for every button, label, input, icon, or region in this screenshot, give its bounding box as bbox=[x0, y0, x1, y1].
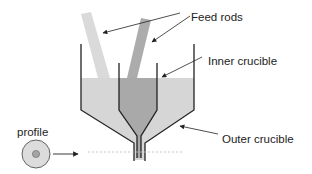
inner-crucible-label: Inner crucible bbox=[208, 55, 277, 67]
outer-crucible-label: Outer crucible bbox=[222, 133, 294, 145]
inner-crucible-arrow bbox=[162, 57, 202, 77]
double-crucible-diagram: Feed rods Inner crucible Outer crucible … bbox=[0, 0, 312, 174]
feed-rod-light bbox=[81, 12, 110, 78]
outer-crucible-arrow bbox=[180, 126, 218, 134]
feed-rods-arrow-2 bbox=[152, 16, 190, 42]
feed-rods-label: Feed rods bbox=[191, 11, 243, 23]
feed-rod-dark bbox=[127, 18, 151, 78]
profile-label: profile bbox=[17, 126, 48, 138]
profile-core-circle bbox=[32, 150, 39, 157]
